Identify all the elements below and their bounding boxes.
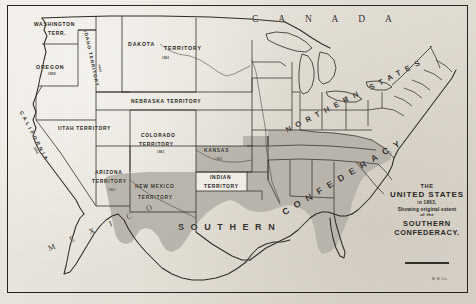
publisher-colophon: W M Co. bbox=[432, 277, 448, 281]
legend-line-the: THE bbox=[383, 183, 471, 189]
legend-line-confederacy: CONFEDERACY. bbox=[383, 228, 471, 237]
legend-line-southern: SOUTHERN bbox=[383, 219, 471, 228]
legend-line-of-the: of the bbox=[383, 212, 471, 217]
map-figure: C A N A D A M E X I C O NORTHERN STATES … bbox=[0, 0, 476, 304]
map-legend: THE UNITED STATES in 1863, Showing origi… bbox=[383, 183, 471, 237]
legend-line-united-states: UNITED STATES bbox=[383, 190, 471, 199]
legend-line-year: in 1863, bbox=[383, 200, 471, 205]
map-border-frame bbox=[7, 5, 468, 293]
